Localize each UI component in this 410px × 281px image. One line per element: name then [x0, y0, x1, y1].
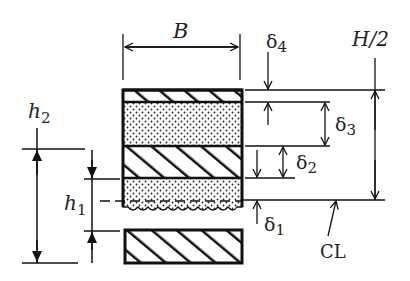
delta4-label: δ4	[266, 30, 287, 56]
upper-dotted-layer	[123, 102, 242, 146]
delta3-label: δ3	[335, 113, 356, 139]
centerline-pointer-arrow	[328, 201, 336, 236]
reference-lines	[242, 90, 385, 200]
h2-label: h2	[28, 99, 50, 127]
lower-dotted-layer	[123, 178, 242, 210]
top-hatched-layer	[123, 90, 242, 102]
middle-hatched-layer	[123, 146, 242, 178]
layered-structure-diagram: B δ4 H/2 δ3 δ2 δ1 C	[0, 0, 410, 281]
layer-stack	[123, 90, 242, 210]
delta2-label: δ2	[296, 151, 317, 177]
h1-label: h1	[64, 191, 86, 219]
delta1-label: δ1	[264, 213, 285, 239]
width-label: B	[172, 19, 188, 43]
centerline-label: CL	[320, 241, 346, 262]
half-height-label: H/2	[351, 27, 389, 51]
bottom-hatched-layer	[125, 230, 242, 263]
